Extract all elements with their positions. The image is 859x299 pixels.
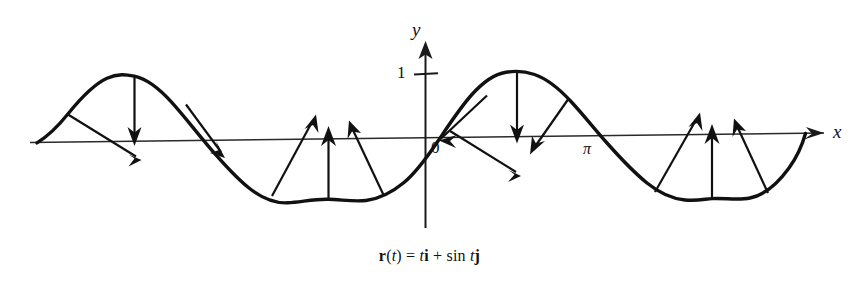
tangent-vector-shaft [439,96,487,141]
tangent-vector [272,115,319,197]
x-axis-label: x [833,122,841,141]
caption-plus: + [429,247,447,264]
tangent-vector-head [348,121,362,140]
tangent-vector [655,113,703,193]
tangent-vector-head [530,136,545,155]
y-axis-label: y [412,20,420,39]
tangent-vector-shaft [186,105,221,153]
tangent-vector [530,100,568,155]
tangent-vector-shaft [737,126,768,193]
tangent-vector-shaft [272,122,312,196]
tangent-vector-group [68,73,768,199]
tangent-vector-shaft [655,120,696,192]
tangent-vector [733,119,769,194]
tangent-vector [510,73,524,144]
tangent-vector-shaft [68,115,136,157]
figure-root: y x 1 0 π r(t) = ti + sin tj [0,0,859,299]
figure-caption: r(t) = ti + sin tj [0,248,859,264]
tangent-vector [450,131,521,182]
y-axis [414,41,438,228]
tangent-vector [348,121,385,197]
caption-j-vector: j [475,247,481,264]
tangent-vector [128,77,142,146]
x-axis [30,127,824,143]
y-tick-label-1: 1 [397,64,406,81]
y-axis-tick-1 [414,73,438,74]
caption-sin-operator: sin [446,247,469,264]
caption-equals: = [402,247,420,264]
x-axis-line [30,133,824,143]
tangent-vector [186,105,225,159]
x-tick-label-pi: π [583,141,591,157]
tangent-vector-shaft [534,100,568,149]
origin-label: 0 [431,139,440,156]
tangent-vector [321,126,336,199]
